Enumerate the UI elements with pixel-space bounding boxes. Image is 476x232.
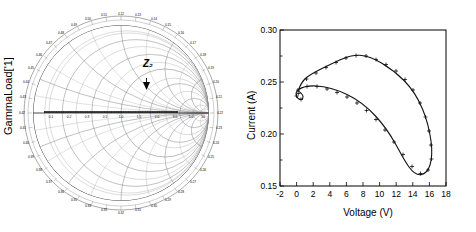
iv-x-tick-labels: -2 0 2 4 6 8 10 12 14 16 18 xyxy=(276,189,451,199)
svg-text:0.15: 0.15 xyxy=(260,181,277,191)
svg-text:1.5: 1.5 xyxy=(137,115,142,119)
svg-text:-2: -2 xyxy=(276,189,284,199)
marker-z2-label: Z₂ xyxy=(143,58,153,69)
svg-text:0.27: 0.27 xyxy=(190,180,196,184)
svg-text:2: 2 xyxy=(311,189,316,199)
svg-text:0.3: 0.3 xyxy=(85,115,90,119)
svg-text:0.16: 0.16 xyxy=(178,31,184,35)
svg-text:5.0: 5.0 xyxy=(189,115,194,119)
svg-text:3.0: 3.0 xyxy=(173,115,178,119)
svg-text:0.48: 0.48 xyxy=(58,31,64,35)
svg-text:0: 0 xyxy=(294,189,299,199)
svg-text:14: 14 xyxy=(408,189,418,199)
svg-text:0.19: 0.19 xyxy=(208,66,214,70)
svg-text:0.25: 0.25 xyxy=(260,77,277,87)
svg-text:0.31: 0.31 xyxy=(135,208,141,212)
svg-text:0.24: 0.24 xyxy=(213,141,219,145)
svg-text:0.25: 0.25 xyxy=(208,155,214,159)
svg-text:0.37: 0.37 xyxy=(46,180,52,184)
svg-text:8: 8 xyxy=(361,189,366,199)
svg-text:0.43: 0.43 xyxy=(20,95,26,99)
iv-curve-panel: Current (A) 0.30 0.25 0.20 0.15 xyxy=(238,0,476,232)
svg-text:0.32: 0.32 xyxy=(118,211,124,215)
svg-text:0.26: 0.26 xyxy=(200,168,206,172)
svg-text:0.51: 0.51 xyxy=(101,13,107,17)
svg-text:1.0: 1.0 xyxy=(119,115,124,119)
iv-x-axis-label: Voltage (V) xyxy=(288,207,448,218)
svg-text:0.14: 0.14 xyxy=(151,17,157,21)
svg-text:0.28: 0.28 xyxy=(178,190,184,194)
iv-curve-plot: 0.30 0.25 0.20 0.15 -2 0 xyxy=(250,20,464,210)
svg-text:10: 10 xyxy=(201,115,205,119)
svg-text:0.50: 0.50 xyxy=(85,17,91,21)
svg-text:0.46: 0.46 xyxy=(36,53,42,57)
svg-text:0.44: 0.44 xyxy=(23,80,29,84)
svg-text:0.5: 0.5 xyxy=(103,115,108,119)
svg-text:0.18: 0.18 xyxy=(200,53,206,57)
svg-text:4: 4 xyxy=(327,189,332,199)
svg-text:12: 12 xyxy=(391,189,401,199)
svg-text:0.20: 0.20 xyxy=(213,80,219,84)
svg-text:0.41: 0.41 xyxy=(20,126,26,130)
svg-text:16: 16 xyxy=(425,189,435,199)
smith-chart-panel: GammaLoad['1] xyxy=(0,0,238,232)
svg-text:0.47: 0.47 xyxy=(46,41,52,45)
svg-text:0.15: 0.15 xyxy=(165,23,171,27)
svg-text:0.2: 0.2 xyxy=(67,115,72,119)
svg-text:0.29: 0.29 xyxy=(165,198,171,202)
figure-container: GammaLoad['1] xyxy=(0,0,476,232)
iv-y-tick-labels: 0.30 0.25 0.20 0.15 xyxy=(260,25,277,191)
svg-text:0.17: 0.17 xyxy=(190,41,196,45)
svg-text:0.39: 0.39 xyxy=(28,155,34,159)
svg-text:10: 10 xyxy=(375,189,385,199)
svg-text:0.20: 0.20 xyxy=(260,129,277,139)
svg-text:0.33: 0.33 xyxy=(101,208,107,212)
svg-text:0.30: 0.30 xyxy=(260,25,277,35)
smith-chart-plot: 0.12 0.13 0.14 0.15 0.16 0.17 0.18 0.19 … xyxy=(18,8,228,223)
svg-text:0.12: 0.12 xyxy=(118,12,124,16)
svg-text:0.34: 0.34 xyxy=(85,204,91,208)
svg-text:0.1: 0.1 xyxy=(49,115,54,119)
svg-text:0.45: 0.45 xyxy=(28,66,34,70)
svg-text:0.22: 0.22 xyxy=(217,111,223,115)
svg-text:0.49: 0.49 xyxy=(71,23,77,27)
svg-text:0.35: 0.35 xyxy=(71,198,77,202)
svg-text:0.40: 0.40 xyxy=(23,141,29,145)
svg-text:0.13: 0.13 xyxy=(135,13,141,17)
svg-text:6: 6 xyxy=(344,189,349,199)
svg-text:0.21: 0.21 xyxy=(216,95,222,99)
svg-text:18: 18 xyxy=(441,189,451,199)
svg-text:0.42: 0.42 xyxy=(19,111,25,115)
iv-plot-frame xyxy=(280,30,446,186)
svg-text:0.36: 0.36 xyxy=(58,190,64,194)
svg-text:0.23: 0.23 xyxy=(216,126,222,130)
svg-text:0.38: 0.38 xyxy=(36,168,42,172)
svg-text:0.30: 0.30 xyxy=(151,204,157,208)
svg-text:2.0: 2.0 xyxy=(155,115,160,119)
